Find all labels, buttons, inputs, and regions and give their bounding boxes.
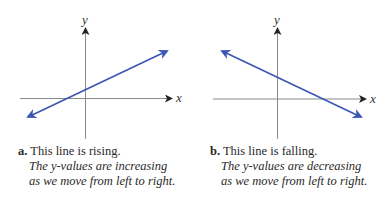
figure-b-falling-line xyxy=(222,51,361,117)
figure-a-description-line-2: as we move from left to right. xyxy=(18,174,175,189)
figure-b-description-line-1: The y-values are decreasing xyxy=(210,159,367,174)
figure-b-falling-line-graph xyxy=(213,29,365,139)
figure-a-title: This line is rising. xyxy=(30,144,120,158)
figure-a-rising-line-graph xyxy=(20,29,171,139)
figure-b-y-axis-label: y xyxy=(274,13,280,26)
figure-a-y-axis-label: y xyxy=(82,13,88,26)
figure-a-letter: a. xyxy=(18,144,27,158)
figure-b-letter: b. xyxy=(210,144,220,158)
figure-a-caption: a. This line is rising. The y-values are… xyxy=(18,144,175,189)
figure-b-title: This line is falling. xyxy=(223,144,317,158)
figure-a-x-axis-label: x xyxy=(176,91,182,104)
figure-b-x-axis-label: x xyxy=(370,92,376,105)
figure-b-caption: b. This line is falling. The y-values ar… xyxy=(210,144,367,189)
figure-b-description-line-2: as we move from left to right. xyxy=(210,174,367,189)
figure-a-description-line-1: The y-values are increasing xyxy=(18,159,175,174)
figure-a-rising-line xyxy=(28,51,167,117)
